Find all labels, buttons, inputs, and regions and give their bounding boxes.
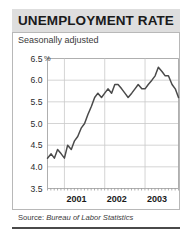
source-note: Source: Bureau of Labor Statistics: [18, 213, 133, 222]
chart-figure: UNEMPLOYMENT RATE Seasonally adjusted So…: [0, 0, 193, 240]
chart-card: UNEMPLOYMENT RATE Seasonally adjusted So…: [12, 9, 180, 223]
bottom-divider: [12, 227, 180, 229]
chart-panel: [12, 32, 180, 210]
title-band: UNEMPLOYMENT RATE: [12, 9, 180, 32]
source-organization: Bureau of Labor Statistics: [46, 213, 133, 222]
chart-subtitle: Seasonally adjusted: [18, 35, 99, 45]
source-label: Source:: [18, 213, 44, 222]
page-title: UNEMPLOYMENT RATE: [12, 13, 180, 28]
